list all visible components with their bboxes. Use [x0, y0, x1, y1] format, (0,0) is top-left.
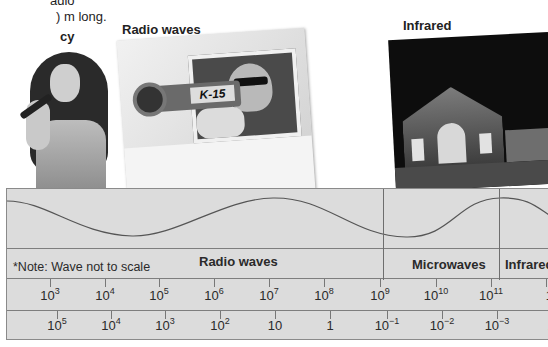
wavelength-label: 104 — [101, 318, 120, 333]
band-label-microwaves: Microwaves — [412, 257, 486, 272]
band-divider-radio-microwave — [383, 189, 384, 280]
frequency-label: 1010 — [424, 288, 448, 303]
divider — [7, 310, 548, 311]
wavelength-label: 10−3 — [485, 318, 510, 333]
intro-bold-line-1: cy — [60, 27, 74, 46]
frequency-label: 1011 — [479, 288, 503, 303]
radar-gun-photo: K-15 — [117, 28, 316, 203]
frequency-label: 109 — [370, 288, 389, 303]
intro-line-2: ) m long. — [56, 7, 107, 26]
divider — [7, 278, 548, 279]
spectrum-panel: *Note: Wave not to scale Radio waves Mic… — [6, 188, 548, 340]
wavelength-label: 102 — [210, 318, 229, 333]
frequency-label: 104 — [95, 288, 114, 303]
singer-photo — [8, 48, 128, 190]
infrared-building-photo — [388, 32, 548, 192]
frequency-label: 107 — [259, 288, 278, 303]
frequency-label: 106 — [204, 288, 223, 303]
wavelength-label: 105 — [47, 318, 66, 333]
wavelength-label: 103 — [155, 318, 174, 333]
wavelength-label: 10 — [268, 318, 282, 333]
band-label-infrared: Infrared — [505, 257, 548, 272]
frequency-label: 108 — [314, 288, 333, 303]
band-divider-microwave-infrared — [499, 189, 500, 280]
divider — [7, 248, 548, 249]
wavelength-label: 10−1 — [375, 318, 400, 333]
frequency-label: 103 — [40, 288, 59, 303]
wavelength-label: 1 — [326, 318, 333, 333]
wave-illustration — [7, 189, 548, 249]
caption-infrared: Infrared — [403, 18, 451, 33]
scale-note: *Note: Wave not to scale — [13, 260, 150, 274]
radar-gun-label: K-15 — [190, 85, 235, 104]
wavelength-label: 10−2 — [430, 318, 455, 333]
band-label-radio: Radio waves — [199, 254, 278, 269]
frequency-label: 105 — [149, 288, 168, 303]
